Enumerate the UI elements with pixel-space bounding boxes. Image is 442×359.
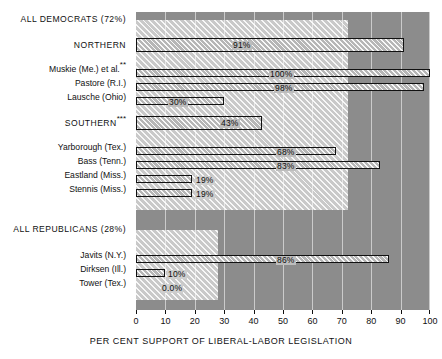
x-axis-tick-labels: 0 10 20 30 40 50 60 70 80 90 100 bbox=[110, 316, 442, 330]
x-tick-60: 60 bbox=[297, 316, 327, 327]
bar-southern bbox=[136, 116, 262, 130]
category-label-eastland: Eastland (Miss.) bbox=[64, 170, 126, 180]
value-label-dirksen: 10% bbox=[167, 270, 187, 279]
category-label-lausche: Lausche (Ohio) bbox=[67, 92, 126, 102]
x-tick-90: 90 bbox=[386, 316, 416, 327]
plot-area: 91% 100% 98% 30% 43% 68% 83% 19% 19% 86%… bbox=[136, 12, 430, 310]
bar-eastland bbox=[136, 175, 192, 183]
value-label-stennis: 19% bbox=[195, 190, 215, 199]
value-label-yarborough: 68% bbox=[276, 148, 296, 157]
category-label-dirksen: Dirksen (Ill.) bbox=[80, 264, 126, 274]
category-label-yarborough: Yarborough (Tex.) bbox=[58, 142, 126, 152]
value-label-southern: 43% bbox=[220, 119, 240, 128]
category-label-javits: Javits (N.Y.) bbox=[80, 250, 126, 260]
value-label-pastore: 98% bbox=[274, 84, 294, 93]
category-label-bass: Bass (Tenn.) bbox=[78, 156, 126, 166]
bar-javits bbox=[136, 255, 389, 263]
x-tick-50: 50 bbox=[268, 316, 298, 327]
category-label-pastore: Pastore (R.I.) bbox=[75, 78, 126, 88]
footnote-marker-southern: *** bbox=[117, 114, 126, 123]
chart-root: ALL DEMOCRATS (72%) NORTHERN Muskie (Me.… bbox=[0, 0, 442, 359]
category-label-tower: Tower (Tex.) bbox=[79, 278, 126, 288]
bar-stennis bbox=[136, 189, 192, 197]
category-label-stennis: Stennis (Miss.) bbox=[69, 184, 126, 194]
x-axis-title: PER CENT SUPPORT OF LIBERAL-LABOR LEGISL… bbox=[0, 336, 442, 346]
x-tick-20: 20 bbox=[180, 316, 210, 327]
value-label-bass: 83% bbox=[276, 162, 296, 171]
bar-northern bbox=[136, 38, 404, 52]
x-tick-70: 70 bbox=[327, 316, 357, 327]
value-label-tower: 0.0% bbox=[161, 284, 183, 293]
value-label-northern: 91% bbox=[232, 41, 252, 50]
bar-yarborough bbox=[136, 147, 336, 155]
category-label-column: ALL DEMOCRATS (72%) NORTHERN Muskie (Me.… bbox=[0, 0, 132, 359]
category-label-all-democrats: ALL DEMOCRATS (72%) bbox=[21, 14, 127, 24]
value-label-lausche: 30% bbox=[168, 98, 188, 107]
x-tick-30: 30 bbox=[209, 316, 239, 327]
value-label-muskie: 100% bbox=[269, 70, 294, 79]
bar-bass bbox=[136, 161, 380, 169]
bar-dirksen bbox=[136, 269, 165, 277]
x-tick-100: 100 bbox=[415, 316, 442, 327]
x-tick-10: 10 bbox=[150, 316, 180, 327]
footnote-marker-muskie: ** bbox=[120, 60, 126, 69]
category-label-all-republicans: ALL REPUBLICANS (28%) bbox=[13, 224, 126, 234]
value-label-eastland: 19% bbox=[195, 176, 215, 185]
value-label-javits: 86% bbox=[276, 256, 296, 265]
category-label-muskie: Muskie (Me.) et al.** bbox=[49, 64, 126, 74]
category-label-southern: SOUTHERN*** bbox=[65, 118, 126, 128]
category-label-northern: NORTHERN bbox=[74, 40, 126, 50]
x-tick-0: 0 bbox=[121, 316, 151, 327]
x-tick-80: 80 bbox=[356, 316, 386, 327]
x-tick-40: 40 bbox=[239, 316, 269, 327]
